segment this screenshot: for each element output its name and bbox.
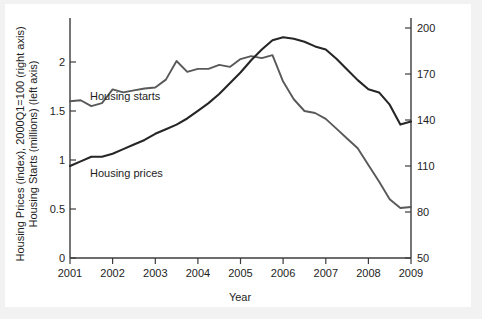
right-tick-label-80: 80 xyxy=(417,206,429,218)
x-axis-title: Year xyxy=(229,291,252,303)
left-tick-label-2: 2 xyxy=(59,56,65,68)
right-axis-tick-labels: 50 80 110 140 170 200 xyxy=(417,22,435,264)
x-tick-label-2006: 2006 xyxy=(271,267,295,279)
right-tick-label-200: 200 xyxy=(417,22,435,34)
x-tick-label-2004: 2004 xyxy=(186,267,210,279)
x-tick-label-2008: 2008 xyxy=(356,267,380,279)
left-tick-label-1: 1 xyxy=(59,154,65,166)
left-axis-ticks xyxy=(70,62,76,258)
x-tick-label-2002: 2002 xyxy=(100,267,124,279)
left-tick-label-0: 0 xyxy=(59,252,65,264)
y-axis-title-line1: Housing Prices (index), 2000Q1=100 (righ… xyxy=(14,26,26,261)
series-annotation-housing-starts: Housing starts xyxy=(90,90,161,102)
right-axis-ticks xyxy=(405,28,411,258)
x-tick-label-2003: 2003 xyxy=(143,267,167,279)
right-tick-label-110: 110 xyxy=(417,160,435,172)
x-tick-label-2007: 2007 xyxy=(314,267,338,279)
y-axis-title-line2: Housing Starts (millions) (left axis) xyxy=(27,61,39,228)
figure-card: Housing Prices (index), 2000Q1=100 (righ… xyxy=(5,4,471,307)
series-annotation-housing-prices: Housing prices xyxy=(90,167,163,179)
x-tick-label-2009: 2009 xyxy=(399,267,423,279)
x-axis-ticks xyxy=(70,258,411,264)
x-axis-tick-labels: 2001 2002 2003 2004 2005 2006 2007 2008 … xyxy=(58,267,423,279)
left-tick-label-0.5: 0.5 xyxy=(50,203,65,215)
x-tick-label-2005: 2005 xyxy=(228,267,252,279)
left-axis-tick-labels: 0 0.5 1 1.5 2 xyxy=(50,56,65,264)
right-tick-label-170: 170 xyxy=(417,68,435,80)
left-tick-label-1.5: 1.5 xyxy=(50,105,65,117)
series-line-housing-starts xyxy=(70,55,411,208)
right-tick-label-140: 140 xyxy=(417,114,435,126)
housing-chart: Housing Prices (index), 2000Q1=100 (righ… xyxy=(5,4,471,307)
right-tick-label-50: 50 xyxy=(417,252,429,264)
x-tick-label-2001: 2001 xyxy=(58,267,82,279)
figure-frame: Housing Prices (index), 2000Q1=100 (righ… xyxy=(0,0,482,319)
